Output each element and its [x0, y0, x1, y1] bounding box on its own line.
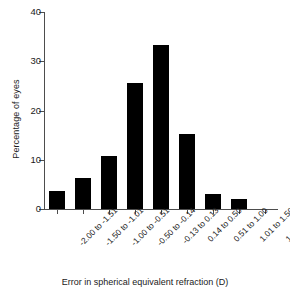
y-tick-label: 40	[30, 7, 41, 17]
bar-chart-figure: Percentage of eyes 010203040 -2.00 to -1…	[0, 0, 290, 292]
y-tick-label: 30	[30, 57, 41, 67]
y-axis-title: Percentage of eyes	[11, 59, 21, 179]
y-tick-label: 0	[36, 204, 41, 214]
x-tick-mark	[83, 209, 84, 214]
bar-group	[44, 12, 278, 209]
x-axis-title: Error in spherical equivalent refraction…	[0, 277, 290, 287]
bar	[49, 191, 65, 209]
plot-area: 010203040	[44, 12, 278, 209]
bar	[153, 45, 169, 209]
bar	[75, 178, 91, 209]
bar	[101, 156, 117, 209]
bar	[179, 134, 195, 209]
x-tick-mark	[57, 209, 58, 214]
y-tick-label: 10	[30, 155, 41, 165]
bar	[127, 83, 143, 209]
y-tick-label: 20	[30, 106, 41, 116]
